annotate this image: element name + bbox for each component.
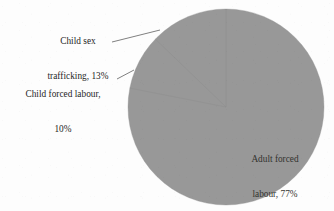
slice-label-line-1: Adult forced xyxy=(233,154,317,166)
slice-label-line-2: 10% xyxy=(4,124,122,136)
slice-label-line-2: labour, 77% xyxy=(233,189,317,201)
slice-label-child-forced-labour: Child forced labour, 10% xyxy=(4,66,122,159)
slice-label-line-1: Child sex xyxy=(28,36,128,48)
slice-label-line-1: Child forced labour, xyxy=(4,89,122,101)
slice-label-adult-forced-labour: Adult forced labour, 77% xyxy=(233,131,317,211)
pie-chart-figure: Child sex trafficking, 13% Child forced … xyxy=(0,0,334,211)
